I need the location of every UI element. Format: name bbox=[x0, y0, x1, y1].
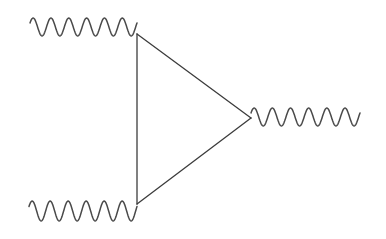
internal-line-bottom bbox=[137, 118, 251, 204]
triangle-loop bbox=[137, 34, 251, 204]
photon-line-right bbox=[251, 108, 360, 126]
feynman-diagram bbox=[0, 0, 386, 239]
external-photon-lines bbox=[29, 18, 360, 221]
internal-line-top bbox=[137, 34, 251, 118]
photon-line-top-left bbox=[30, 18, 137, 36]
photon-line-bottom-left bbox=[29, 201, 137, 221]
